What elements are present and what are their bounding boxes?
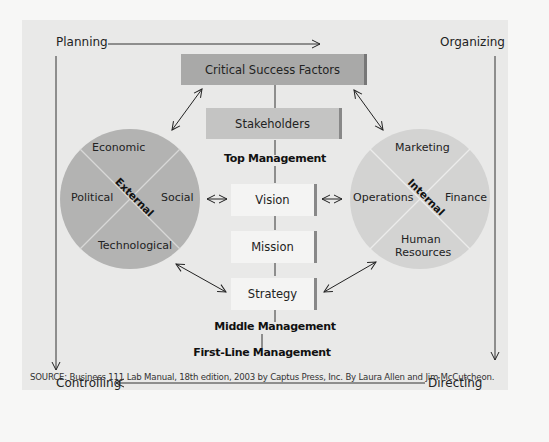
- critical-success-factors-label: Critical Success Factors: [205, 63, 340, 77]
- vision-box: Vision: [231, 184, 317, 216]
- external-technological: Technological: [98, 239, 172, 252]
- vision-label: Vision: [255, 193, 289, 207]
- first-line-management-label: First-Line Management: [193, 346, 331, 359]
- internal-marketing: Marketing: [395, 141, 450, 154]
- internal-operations: Operations: [353, 191, 413, 204]
- external-economic: Economic: [92, 141, 145, 154]
- organizing-label: Organizing: [440, 35, 505, 49]
- source-caption: SOURCE: Business 111 Lab Manual, 18th ed…: [30, 372, 494, 382]
- internal-resources: Resources: [395, 246, 451, 259]
- external-political: Political: [71, 191, 113, 204]
- stakeholders-label: Stakeholders: [235, 117, 310, 131]
- planning-label: Planning: [56, 35, 108, 49]
- strategy-label: Strategy: [248, 287, 297, 301]
- strategy-box: Strategy: [231, 278, 317, 310]
- stakeholders-box: Stakeholders: [206, 108, 342, 139]
- internal-finance: Finance: [445, 191, 487, 204]
- mission-box: Mission: [231, 231, 317, 263]
- critical-success-factors-box: Critical Success Factors: [181, 54, 367, 85]
- top-management-label: Top Management: [224, 152, 326, 165]
- external-social: Social: [161, 191, 194, 204]
- middle-management-label: Middle Management: [214, 320, 335, 333]
- mission-label: Mission: [251, 240, 294, 254]
- internal-human: Human: [401, 233, 441, 246]
